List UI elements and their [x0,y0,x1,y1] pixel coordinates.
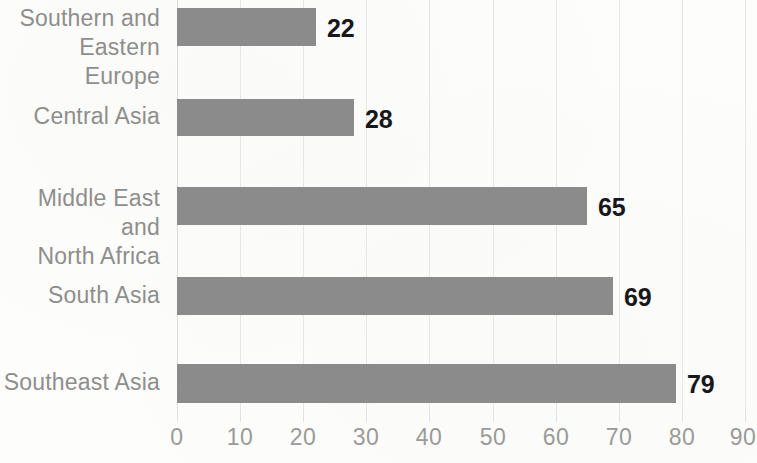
bar-row-3: 69 [177,277,745,315]
category-label-4: Southeast Asia [4,368,160,397]
category-label-1: Central Asia [34,102,160,131]
x-tick-label-40: 40 [416,424,443,451]
tick-mark-0 [177,410,178,422]
tick-mark-90 [745,410,746,422]
x-tick-label-70: 70 [606,424,633,451]
bar-row-4: 79 [177,364,745,403]
bar-value-1: 28 [365,105,392,134]
bar-central-asia [177,99,354,136]
bar-chart: Southern and Eastern Europe Central Asia… [0,0,757,463]
tick-mark-10 [240,410,241,422]
category-label-3: South Asia [48,281,160,310]
bar-row-1: 28 [177,99,745,136]
tick-mark-30 [366,410,367,422]
plot-area: 22 28 65 69 79 0 10 20 30 40 50 60 70 80… [177,0,745,410]
bar-value-4: 79 [687,370,714,399]
tick-mark-50 [493,410,494,422]
x-tick-label-20: 20 [290,424,317,451]
tick-mark-70 [619,410,620,422]
bar-middle-east-and-north-africa [177,187,587,225]
bar-southeast-asia [177,364,676,403]
x-tick-label-90: 90 [730,424,757,451]
x-tick-label-50: 50 [480,424,507,451]
tick-mark-80 [682,410,683,422]
category-label-0: Southern and Eastern Europe [0,4,160,91]
x-tick-label-60: 60 [543,424,570,451]
x-tick-label-30: 30 [353,424,380,451]
bar-row-2: 65 [177,187,745,225]
x-tick-label-0: 0 [170,424,183,451]
category-label-2: Middle East and North Africa [0,184,160,271]
bar-row-0: 22 [177,8,745,46]
bar-south-asia [177,277,613,315]
bar-value-0: 22 [327,14,354,43]
tick-mark-40 [429,410,430,422]
tick-mark-20 [303,410,304,422]
tick-mark-60 [556,410,557,422]
bar-value-3: 69 [624,283,651,312]
x-tick-label-80: 80 [669,424,696,451]
bar-southern-and-eastern-europe [177,8,316,46]
bar-value-2: 65 [598,193,625,222]
gridline-90 [745,0,746,410]
x-tick-label-10: 10 [227,424,254,451]
